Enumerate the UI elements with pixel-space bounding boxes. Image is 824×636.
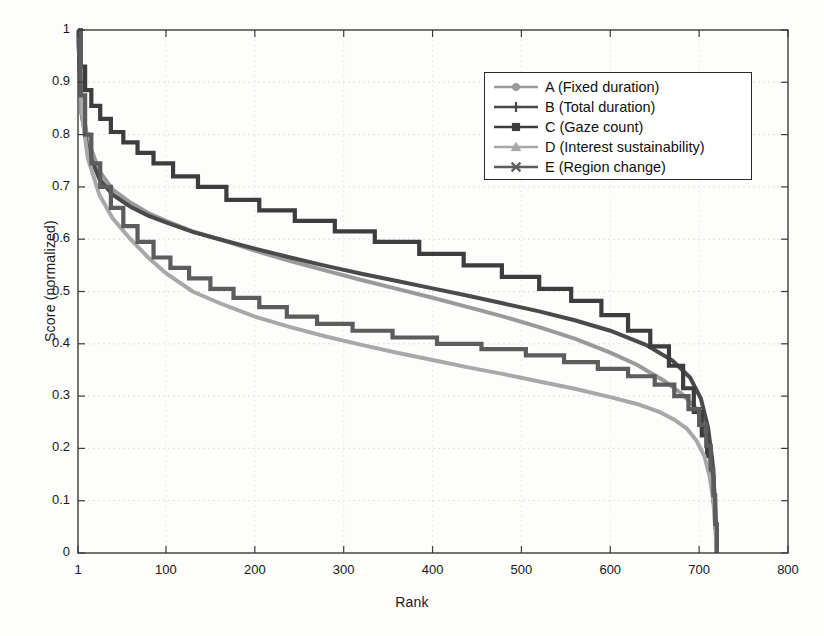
legend-label: A (Fixed duration) <box>545 78 659 96</box>
y-tick-label: 0.2 <box>24 439 70 454</box>
x-tick-label: 200 <box>225 562 285 577</box>
y-tick-label: 0.3 <box>24 387 70 402</box>
y-tick-label: 0.6 <box>24 230 70 245</box>
triangle-marker <box>492 138 540 156</box>
x-axis-title: Rank <box>0 594 824 610</box>
legend-label: D (Interest sustainability) <box>545 138 705 156</box>
x-tick-label: 800 <box>758 562 818 577</box>
y-tick-label: 0.8 <box>24 126 70 141</box>
legend-label: C (Gaze count) <box>545 118 643 136</box>
x-tick-label: 100 <box>136 562 196 577</box>
x-tick-label: 500 <box>491 562 551 577</box>
legend-item-D: D (Interest sustainability) <box>485 137 751 157</box>
x-tick-label: 400 <box>403 562 463 577</box>
cross-marker <box>492 158 540 176</box>
y-tick-label: 1 <box>24 21 70 36</box>
legend-item-B: B (Total duration) <box>485 97 751 117</box>
chart-legend: A (Fixed duration)B (Total duration)C (G… <box>484 72 752 180</box>
legend-label: B (Total duration) <box>545 98 655 116</box>
x-tick-label: 700 <box>669 562 729 577</box>
square-marker <box>492 118 540 136</box>
legend-item-C: C (Gaze count) <box>485 117 751 137</box>
legend-item-A: A (Fixed duration) <box>485 77 751 97</box>
legend-label: E (Region change) <box>545 158 666 176</box>
x-tick-label: 300 <box>314 562 374 577</box>
y-tick-label: 0.1 <box>24 492 70 507</box>
circle-marker <box>492 78 540 96</box>
y-tick-label: 0.7 <box>24 178 70 193</box>
y-tick-label: 0 <box>24 544 70 559</box>
figure-container: Score (normalized) Rank 00.10.20.30.40.5… <box>0 0 824 636</box>
y-tick-label: 0.5 <box>24 283 70 298</box>
legend-item-E: E (Region change) <box>485 157 751 177</box>
y-tick-label: 0.9 <box>24 73 70 88</box>
x-tick-label: 600 <box>580 562 640 577</box>
y-tick-label: 0.4 <box>24 335 70 350</box>
plus-marker <box>492 98 540 116</box>
x-tick-label: 1 <box>48 562 108 577</box>
